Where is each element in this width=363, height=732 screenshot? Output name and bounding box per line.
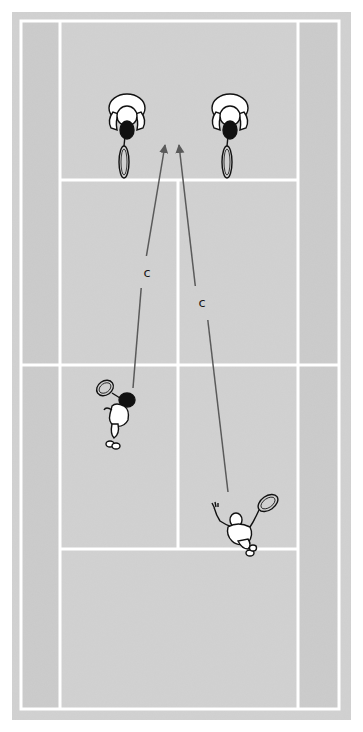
arrow-left-label: c: [143, 266, 150, 279]
tennis-court-diagram: [0, 0, 363, 732]
arrow-right-label: c: [198, 296, 205, 309]
